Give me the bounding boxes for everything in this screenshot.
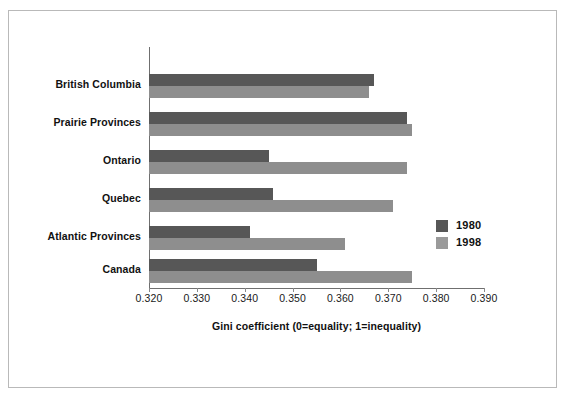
bar-1998-british-columbia — [149, 86, 369, 98]
legend-swatch-icon-1998 — [436, 237, 448, 249]
chart-legend: 19801998 — [436, 218, 516, 252]
category-label-row: Ontario — [0, 154, 141, 168]
x-axis-line — [149, 288, 484, 289]
bar-1998-ontario — [149, 162, 407, 174]
category-label-row: Quebec — [0, 192, 141, 206]
category-label: Ontario — [0, 154, 141, 166]
bar-1980-british-columbia — [149, 74, 374, 86]
category-label: British Columbia — [0, 78, 141, 90]
x-axis-title: Gini coefficient (0=equality; 1=inequali… — [149, 320, 484, 332]
category-label-row: Atlantic Provinces — [0, 230, 141, 244]
bar-1998-prairie-provinces — [149, 124, 412, 136]
bar-1998-canada — [149, 271, 412, 283]
bar-1998-quebec — [149, 200, 393, 212]
bar-1980-quebec — [149, 188, 273, 200]
legend-label-1980: 1980 — [456, 219, 481, 231]
legend-label-1998: 1998 — [456, 236, 481, 248]
bar-1998-atlantic-provinces — [149, 238, 345, 250]
category-label: Atlantic Provinces — [0, 230, 141, 242]
legend-swatch-icon-1980 — [436, 220, 448, 232]
bar-1980-ontario — [149, 150, 269, 162]
bar-1980-prairie-provinces — [149, 112, 407, 124]
category-label: Canada — [0, 263, 141, 275]
category-label: Prairie Provinces — [0, 116, 141, 128]
category-label-row: Prairie Provinces — [0, 116, 141, 130]
category-label-row: British Columbia — [0, 78, 141, 92]
bar-1980-atlantic-provinces — [149, 226, 250, 238]
category-label-row: Canada — [0, 263, 141, 277]
category-label: Quebec — [0, 192, 141, 204]
x-tick-label-0.390: 0.390 — [454, 292, 514, 304]
legend-item-1998: 1998 — [436, 235, 516, 252]
legend-item-1980: 1980 — [436, 218, 516, 235]
bar-chart: 0.3200.3300.3400.3500.3600.3700.3800.390… — [0, 0, 569, 405]
bar-1980-canada — [149, 259, 317, 271]
